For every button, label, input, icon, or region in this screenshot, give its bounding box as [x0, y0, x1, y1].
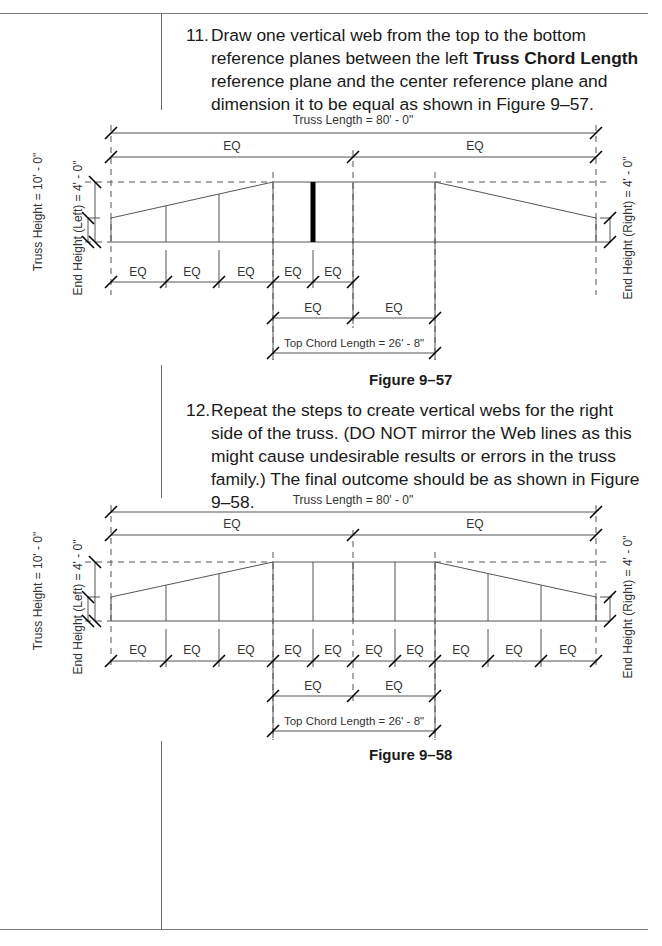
- margin-line-3: [161, 741, 162, 930]
- figure-9-57-caption: Figure 9–57: [369, 371, 452, 388]
- svg-text:EQ: EQ: [365, 643, 382, 657]
- step-number: 12.: [186, 399, 210, 422]
- step-11: 11. Draw one vertical web from the top t…: [186, 24, 646, 116]
- svg-text:EQ: EQ: [304, 679, 321, 693]
- truss-length-label: Truss Length = 80' - 0": [293, 493, 414, 507]
- margin-line-1: [161, 13, 162, 110]
- top-chord-length-label: Top Chord Length = 26' - 8": [284, 337, 424, 349]
- step-bold-term: Truss Chord Length: [473, 48, 638, 68]
- svg-text:EQ: EQ: [466, 139, 483, 153]
- svg-text:EQ: EQ: [385, 301, 402, 315]
- svg-text:EQ: EQ: [129, 643, 146, 657]
- svg-text:EQ: EQ: [237, 643, 254, 657]
- svg-text:EQ: EQ: [284, 265, 301, 279]
- svg-text:EQ: EQ: [385, 679, 402, 693]
- svg-text:EQ: EQ: [304, 301, 321, 315]
- end-height-right-label: End Height (Right) = 4' - 0": [621, 536, 635, 679]
- truss-height-label: Truss Height = 10' - 0": [31, 532, 45, 651]
- svg-text:EQ: EQ: [237, 265, 254, 279]
- step-text: Draw one vertical web from the top to th…: [186, 24, 646, 116]
- figure-9-58-drawing: Truss Length = 80' - 0" EQ EQ EQ EQ EQ E…: [0, 490, 662, 740]
- step-number: 11.: [186, 24, 209, 47]
- end-height-left-label: End Height (Left) = 4' - 0": [71, 161, 85, 296]
- svg-text:EQ: EQ: [406, 643, 423, 657]
- svg-text:EQ: EQ: [324, 265, 341, 279]
- truss-length-label: Truss Length = 80' - 0": [293, 113, 414, 127]
- svg-text:EQ: EQ: [452, 643, 469, 657]
- figure-9-58-caption: Figure 9–58: [369, 746, 452, 763]
- svg-text:EQ: EQ: [183, 643, 200, 657]
- svg-text:EQ: EQ: [223, 517, 240, 531]
- svg-text:EQ: EQ: [559, 643, 576, 657]
- truss-height-label: Truss Height = 10' - 0": [31, 153, 45, 272]
- svg-text:EQ: EQ: [223, 139, 240, 153]
- page-top-rule: [0, 13, 648, 14]
- end-height-left-label: End Height (Left) = 4' - 0": [71, 540, 85, 675]
- svg-text:EQ: EQ: [284, 643, 301, 657]
- page-bottom-rule: [0, 929, 648, 930]
- end-height-right-label: End Height (Right) = 4' - 0": [621, 157, 635, 300]
- svg-text:EQ: EQ: [183, 265, 200, 279]
- svg-text:EQ: EQ: [466, 517, 483, 531]
- svg-text:EQ: EQ: [129, 265, 146, 279]
- svg-text:EQ: EQ: [505, 643, 522, 657]
- top-chord-length-label: Top Chord Length = 26' - 8": [284, 715, 424, 727]
- svg-text:EQ: EQ: [324, 643, 341, 657]
